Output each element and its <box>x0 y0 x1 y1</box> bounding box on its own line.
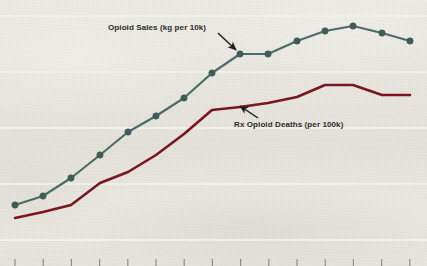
annotation-arrow-0 <box>218 33 236 50</box>
data-point-marker <box>407 38 413 44</box>
line-rx-opioid-deaths <box>15 85 410 218</box>
data-point-marker <box>12 202 18 208</box>
data-point-marker <box>181 95 187 101</box>
data-point-marker <box>68 175 74 181</box>
data-point-marker <box>350 23 356 29</box>
data-point-marker <box>125 129 131 135</box>
data-point-marker <box>209 70 215 76</box>
chart-figure: Opioid Sales (kg per 10k) Rx Opioid Deat… <box>0 0 427 266</box>
data-point-marker <box>322 28 328 34</box>
x-axis-tick-marks <box>15 259 410 266</box>
data-point-markers-opioid-sales <box>12 23 413 208</box>
data-point-marker <box>379 30 385 36</box>
chart-plot-area <box>0 0 427 266</box>
annotation-label-opioid-sales: Opioid Sales (kg per 10k) <box>108 23 206 32</box>
data-point-marker <box>97 152 103 158</box>
annotation-label-rx-opioid-deaths: Rx Opioid Deaths (per 100k) <box>234 120 343 129</box>
data-point-marker <box>40 193 46 199</box>
annotation-arrow-1 <box>240 106 258 118</box>
data-point-marker <box>265 51 271 57</box>
data-point-marker <box>294 38 300 44</box>
data-point-marker <box>237 51 243 57</box>
data-point-marker <box>153 113 159 119</box>
